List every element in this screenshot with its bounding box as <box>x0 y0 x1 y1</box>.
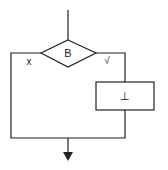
process-label: ⊥ <box>120 90 130 102</box>
false-branch-line <box>11 53 68 138</box>
decision-label: B <box>64 47 71 59</box>
true-branch-label: √ <box>104 55 110 66</box>
true-branch-line <box>96 53 125 82</box>
flowchart: B x √ ⊥ <box>0 0 168 170</box>
false-branch-label: x <box>27 56 32 67</box>
arrow-down-icon <box>63 152 73 161</box>
process-exit-line <box>68 110 125 138</box>
